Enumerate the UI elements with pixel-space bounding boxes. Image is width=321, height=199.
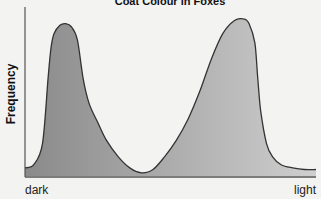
chart: Coat Colour in Foxes Frequency dark ligh… — [0, 0, 321, 199]
y-axis-label: Frequency — [4, 63, 18, 124]
x-tick-dark: dark — [25, 183, 49, 197]
distribution-area — [25, 19, 316, 176]
chart-title: Coat Colour in Foxes — [115, 0, 226, 7]
x-tick-light: light — [294, 183, 317, 197]
